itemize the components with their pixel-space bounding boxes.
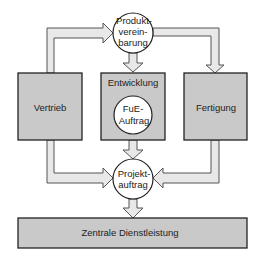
label-fue-auftrag-1: FuE- bbox=[123, 103, 144, 114]
arrow-vertrieb-to-produktvereinbarung bbox=[47, 23, 113, 73]
arrow-produktvereinbarung-to-fertigung bbox=[153, 28, 224, 73]
arrow-entwicklung-to-projektauftrag bbox=[123, 140, 143, 159]
label-fertigung: Fertigung bbox=[196, 102, 236, 113]
diagram-canvas: Produkt- verein- barung Vertrieb Entwick… bbox=[0, 0, 259, 260]
arrow-fertigung-to-projektauftrag bbox=[153, 140, 219, 188]
label-projektauftrag-1: Projekt- bbox=[118, 168, 151, 179]
label-produktvereinbarung-2: verein- bbox=[118, 26, 147, 37]
label-zentrale-dienstleistung: Zentrale Dienstleistung bbox=[81, 227, 178, 238]
label-projektauftrag-2: auftrag bbox=[118, 179, 148, 190]
arrow-produktvereinbarung-to-entwicklung bbox=[123, 53, 143, 72]
arrow-vertrieb-to-projektauftrag bbox=[47, 140, 113, 188]
label-fue-auftrag-2: Auftrag bbox=[119, 115, 150, 126]
arrow-projektauftrag-to-zentrale-dienstleistung bbox=[123, 199, 143, 218]
label-produktvereinbarung-1: Produkt- bbox=[116, 15, 152, 26]
label-entwicklung: Entwicklung bbox=[108, 77, 159, 88]
label-produktvereinbarung-3: barung bbox=[118, 37, 148, 48]
label-vertrieb: Vertrieb bbox=[34, 102, 67, 113]
